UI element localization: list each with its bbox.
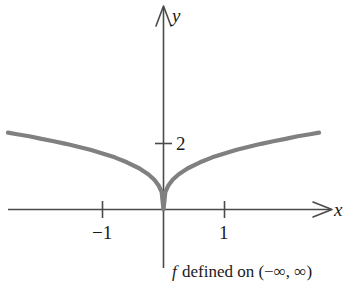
y-tick-label-2: 2 [176, 134, 186, 153]
x-tick-label-neg1: −1 [92, 223, 112, 242]
caption-text: defined on (−∞, ∞) [178, 262, 312, 281]
figure-caption: f defined on (−∞, ∞) [172, 262, 312, 282]
y-axis-label: y [172, 6, 180, 25]
function-graph-figure [0, 0, 348, 286]
x-tick-label-pos1: 1 [219, 223, 229, 242]
x-axis-label: x [334, 200, 342, 219]
